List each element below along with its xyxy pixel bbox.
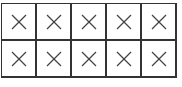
cross-icon <box>81 14 97 30</box>
game-board <box>1 3 177 78</box>
cross-icon <box>11 14 27 30</box>
cross-icon <box>151 51 167 67</box>
board-cell-r1-c4[interactable] <box>107 4 142 41</box>
cross-icon <box>46 51 62 67</box>
cross-icon <box>116 14 132 30</box>
cross-icon <box>81 51 97 67</box>
cross-icon <box>151 14 167 30</box>
board-cell-r2-c4[interactable] <box>107 41 142 78</box>
cross-icon <box>11 51 27 67</box>
board-cell-r2-c1[interactable] <box>2 41 37 78</box>
cross-icon <box>46 14 62 30</box>
board-cell-r2-c2[interactable] <box>37 41 72 78</box>
cross-icon <box>116 51 132 67</box>
board-cell-r2-c3[interactable] <box>72 41 107 78</box>
board-cell-r1-c3[interactable] <box>72 4 107 41</box>
board-cell-r1-c2[interactable] <box>37 4 72 41</box>
board-cell-r1-c5[interactable] <box>142 4 177 41</box>
board-cell-r1-c1[interactable] <box>2 4 37 41</box>
board-cell-r2-c5[interactable] <box>142 41 177 78</box>
